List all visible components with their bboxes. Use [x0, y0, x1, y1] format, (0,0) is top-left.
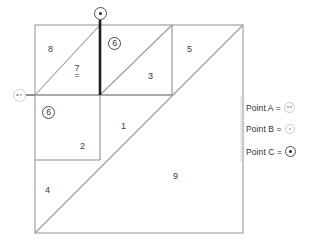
point-a-dot-right	[20, 94, 22, 96]
circle-small-dot-icon	[285, 124, 295, 134]
circle-two-dots-icon	[284, 102, 295, 113]
point-c-dot	[99, 12, 102, 15]
point-a-dot-left	[16, 94, 18, 96]
region-label-6-left: 6	[42, 106, 55, 119]
region-label-3: 3	[148, 72, 153, 81]
region-label-5: 5	[187, 45, 192, 54]
point-c-marker[interactable]	[94, 7, 107, 20]
region-label-4: 4	[45, 186, 50, 195]
region-label-2: 2	[80, 142, 85, 151]
circle-filled-dot-icon	[285, 146, 296, 157]
diagram-canvas: 1 2 3 4 5 8 9 6 6 7 = Point A = Point B …	[0, 0, 320, 252]
legend-row-point-c: Point C =	[246, 146, 296, 157]
diagonal-8-7	[35, 25, 100, 95]
legend-row-point-b: Point B =	[246, 124, 295, 134]
diagonal-6-3	[100, 25, 172, 95]
main-diagonal	[35, 25, 243, 233]
region-label-1: 1	[121, 122, 126, 131]
region-label-7: 7 =	[70, 64, 84, 80]
point-a-marker[interactable]	[13, 89, 26, 102]
region-label-6-top: 6	[108, 37, 121, 50]
region-label-7-equals: =	[70, 72, 84, 80]
region-label-8: 8	[48, 45, 53, 54]
legend-row-point-a: Point A =	[246, 102, 295, 113]
legend-label-point-a: Point A =	[246, 103, 281, 113]
legend-label-point-c: Point C =	[246, 147, 282, 157]
legend-label-point-b: Point B =	[246, 124, 282, 134]
region-label-9: 9	[173, 172, 178, 181]
